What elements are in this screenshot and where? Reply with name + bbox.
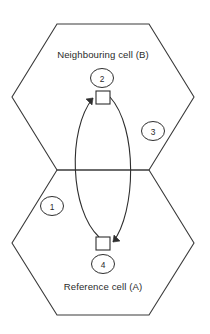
connector-arc-upward bbox=[75, 98, 99, 237]
label-neighbouring-cell-b: Neighbouring cell (B) bbox=[57, 49, 149, 60]
callout-label-1: 1 bbox=[50, 202, 55, 212]
callout-label-4: 4 bbox=[101, 260, 106, 270]
callout-label-3: 3 bbox=[151, 127, 156, 137]
marker-square-top bbox=[96, 91, 110, 104]
label-reference-cell-a: Reference cell (A) bbox=[64, 281, 143, 292]
arrowhead-upward-icon bbox=[86, 98, 93, 105]
cellular-handover-diagram: 2 3 1 4 Neighbouring cell (B) Reference … bbox=[0, 0, 210, 334]
diagram-canvas: 2 3 1 4 Neighbouring cell (B) Reference … bbox=[0, 0, 210, 334]
callout-label-2: 2 bbox=[100, 74, 105, 84]
marker-square-bottom bbox=[96, 237, 110, 250]
